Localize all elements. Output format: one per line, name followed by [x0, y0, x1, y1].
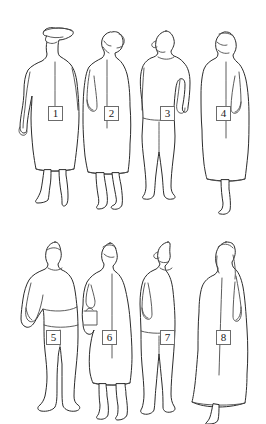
- figure-5-silhouette: [21, 242, 80, 411]
- figure-badge-6[interactable]: 6: [102, 330, 117, 345]
- figure-7-silhouette: [140, 242, 175, 414]
- figure-badge-7[interactable]: 7: [160, 330, 175, 345]
- figure-badge-4[interactable]: 4: [216, 106, 231, 121]
- silhouette-canvas: [0, 0, 266, 424]
- figure-4-silhouette: [201, 32, 249, 214]
- figure-badge-1[interactable]: 1: [48, 106, 63, 121]
- figure-badge-8[interactable]: 8: [216, 330, 231, 345]
- figure-badge-2[interactable]: 2: [104, 106, 119, 121]
- figure-badge-3[interactable]: 3: [160, 106, 175, 121]
- figure-badge-5[interactable]: 5: [46, 330, 61, 345]
- figure-silhouette-sheet: 1 2 3 4 5 6 7 8: [0, 0, 266, 424]
